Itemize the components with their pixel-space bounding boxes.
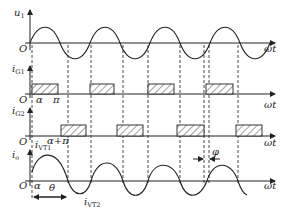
ig1-panel: iG1 O α π ωt bbox=[12, 63, 277, 110]
io-label: io bbox=[12, 149, 19, 162]
io-current-wave bbox=[32, 155, 247, 195]
origin-label: O bbox=[19, 136, 27, 147]
x-axis-label: ωt bbox=[264, 99, 277, 110]
ig1-pulse bbox=[206, 84, 233, 94]
ig2-label: iG2 bbox=[12, 105, 25, 118]
x-axis-label: ωt bbox=[264, 137, 277, 148]
origin-label: O bbox=[19, 43, 27, 54]
pi-label: π bbox=[52, 94, 60, 105]
ig2-pulse bbox=[177, 125, 204, 136]
phi-label: φ bbox=[212, 146, 219, 157]
ig2-pulse bbox=[236, 125, 262, 136]
ig2-panel: iG2 O α+π ωt bbox=[12, 105, 277, 148]
x-axis-label: ωt bbox=[264, 43, 277, 54]
waveform-diagram: u1 O ωt iG1 O α π ωt iG2 O α+π ωt io iVT… bbox=[0, 0, 291, 214]
theta-label: θ bbox=[49, 182, 55, 193]
alpha-label: α bbox=[36, 94, 43, 105]
ig1-pulse bbox=[32, 84, 58, 94]
dashed-guides bbox=[32, 45, 238, 200]
origin-label: O bbox=[19, 180, 27, 191]
origin-label: O bbox=[19, 94, 27, 105]
alpha-label: α bbox=[34, 180, 41, 191]
io-panel: io iVT1 iVT2 O α θ ωt φ bbox=[12, 139, 277, 209]
ig1-pulse bbox=[148, 84, 174, 94]
ig2-pulse bbox=[117, 125, 143, 136]
ig1-label: iG1 bbox=[12, 63, 25, 76]
ig1-pulse bbox=[90, 84, 114, 94]
ivt2-label: iVT2 bbox=[84, 196, 100, 209]
x-axis-label: ωt bbox=[264, 180, 277, 191]
u1-label: u1 bbox=[14, 7, 25, 20]
